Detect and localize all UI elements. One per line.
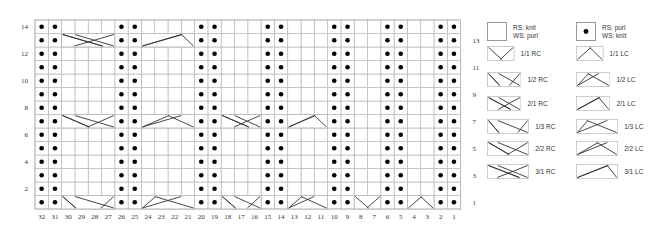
purl-dot-icon [212,92,217,97]
purl-dot-icon [385,159,390,164]
chart-cell [341,169,354,183]
chart-cell [88,88,101,102]
knit-symbol-icon [487,22,507,41]
purl-dot-icon [39,146,44,151]
purl-dot-icon [332,92,337,97]
purl-dot-icon [438,38,443,43]
chart-cell [208,61,221,75]
purl-dot-icon [438,92,443,97]
legend-2-2-rc: 2/2 RC [487,141,555,156]
chart-cell [102,88,115,102]
chart-cell [261,101,274,115]
chart-cell [407,155,420,169]
purl-dot-icon [385,65,390,70]
chart-cell [141,169,154,183]
column-number: 6 [386,213,390,221]
chart-cell [394,142,407,156]
chart-cell [407,169,420,183]
purl-dot-icon [39,78,44,83]
chart-cell [48,115,61,129]
chart-cell [48,74,61,88]
chart-cell [381,169,394,183]
chart-cell [434,128,447,142]
chart-cell [301,155,314,169]
row-number: 13 [473,37,480,45]
column-number: 19 [211,213,219,221]
chart-cell [62,101,75,115]
chart-cell [75,128,88,142]
purl-dot-icon [332,186,337,191]
column-number: 14 [278,213,286,221]
purl-dot-icon [199,92,204,97]
chart-cell [261,155,274,169]
chart-cell [328,155,341,169]
purl-dot-icon [199,173,204,178]
purl-dot-icon [212,24,217,29]
purl-dot-icon [199,119,204,124]
purl-dot-icon [438,132,443,137]
chart-cell [35,155,48,169]
chart-cell [381,34,394,48]
chart-cell [208,88,221,102]
chart-cell [434,142,447,156]
purl-symbol-icon [576,22,596,41]
chart-cell [62,128,75,142]
purl-dot-icon [199,78,204,83]
cable-2-1-rc-icon [221,115,261,129]
chart-cell [235,74,248,88]
chart-cell [434,101,447,115]
chart-cell [235,20,248,34]
chart-cell [48,155,61,169]
chart-cell [195,182,208,196]
purl-dot-icon [345,159,350,164]
purl-dot-icon [452,159,457,164]
purl-dot-icon [345,51,350,56]
chart-cell [181,142,194,156]
purl-dot-icon [345,65,350,70]
purl-dot-icon [398,38,403,43]
chart-cell [35,20,48,34]
purl-dot-icon [53,51,58,56]
purl-dot-icon [385,78,390,83]
purl-dot-icon [452,119,457,124]
purl-dot-icon [119,105,124,110]
chart-cell [181,128,194,142]
chart-cell [102,47,115,61]
purl-dot-icon [39,38,44,43]
purl-dot-icon [119,78,124,83]
chart-cell [235,34,248,48]
chart-cell [155,128,168,142]
purl-dot-icon [212,105,217,110]
chart-cell [208,101,221,115]
purl-dot-icon [53,132,58,137]
purl-dot-icon [332,65,337,70]
legend-cable-label: 3/1 RC [535,168,555,176]
cable-1-2-rc-icon [221,196,261,210]
cable-3-1-lc-icon [141,34,194,48]
chart-cell [235,128,248,142]
chart-cell [141,128,154,142]
column-number: 17 [238,213,246,221]
chart-cell [248,47,261,61]
chart-cell [341,155,354,169]
purl-dot-icon [53,159,58,164]
purl-dot-icon [199,65,204,70]
chart-cell [447,101,460,115]
purl-dot-icon [212,159,217,164]
cable-1-1-lc-icon [577,47,604,61]
chart-cell [354,74,367,88]
chart-cell [88,47,101,61]
purl-dot-icon [345,24,350,29]
chart-cell [221,20,234,34]
purl-dot-icon [132,38,137,43]
chart-cell [168,61,181,75]
chart-cell [314,88,327,102]
chart-cell [48,61,61,75]
chart-cell [341,47,354,61]
purl-dot-icon [119,92,124,97]
column-number: 16 [251,213,259,221]
chart-cell [115,88,128,102]
chart-cell [368,61,381,75]
chart-cell [48,34,61,48]
purl-dot-icon [132,92,137,97]
